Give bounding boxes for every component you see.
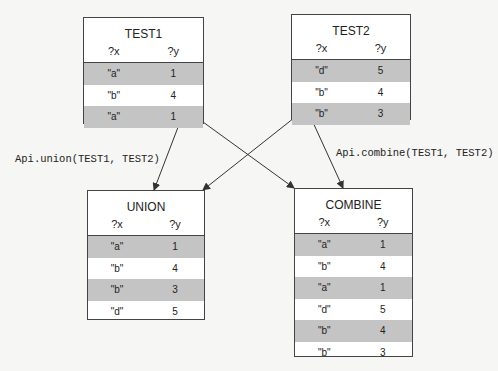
cell: 4 [354,325,413,336]
column-header: ?x [292,42,351,59]
cell: "a" [84,111,144,122]
arrows-layer [0,0,498,371]
cell: "b" [292,87,351,98]
cell: 3 [354,347,413,358]
table-row: "a"1 [84,63,203,85]
column-header: ?y [351,42,410,59]
table-header: ?x ?y [84,41,203,63]
arrow-test2-to-union [203,118,294,190]
table-row: "b"3 [292,103,410,125]
column-header: ?x [295,216,354,233]
table-title: COMBINE [295,189,412,212]
cell: 1 [146,241,204,252]
cell: 5 [354,304,413,315]
table-row: "b"4 [295,320,412,342]
table-header: ?x ?y [295,212,412,234]
table-row: "a"1 [84,106,203,128]
cell: 3 [146,284,204,295]
cell: 1 [144,68,204,79]
column-header: ?y [144,45,204,62]
cell: 1 [354,239,413,250]
table-row: "b"3 [88,279,204,301]
table-row: "a"1 [295,234,412,256]
cell: "b" [292,108,351,119]
cell: 5 [351,65,410,76]
cell: 4 [144,90,204,101]
table-header: ?x ?y [88,214,204,236]
cell: "d" [292,65,351,76]
table-row: "b"4 [295,256,412,278]
cell: "b" [295,261,354,272]
cell: "a" [295,282,354,293]
cell: "a" [295,239,354,250]
table-row: "a"1 [295,277,412,299]
cell: 5 [146,306,204,317]
combine-call-label: Api.combine(TEST1, TEST2) [336,147,494,159]
table-title: UNION [88,191,204,214]
union-call-label: Api.union(TEST1, TEST2) [15,153,160,165]
cell: "d" [295,304,354,315]
cell: "a" [88,241,146,252]
table-test1: TEST1 ?x ?y "a"1 "b"4 "a"1 [83,17,204,124]
cell: "a" [84,68,144,79]
table-row: "b"4 [292,82,410,104]
cell: "b" [84,90,144,101]
cell: "b" [88,284,146,295]
table-title: TEST2 [292,15,410,38]
arrow-test1-to-combine [203,122,294,188]
cell: 3 [351,108,410,119]
table-row: "b"4 [84,85,203,107]
table-row: "b"3 [295,342,412,364]
column-header: ?x [84,45,144,62]
cell: "b" [88,263,146,274]
column-header: ?x [88,218,146,235]
table-row: "a"1 [88,236,204,258]
cell: 1 [354,282,413,293]
cell: 1 [144,111,204,122]
table-combine: COMBINE ?x ?y "a"1 "b"4 "a"1 "d"5 "b"4 "… [294,188,413,357]
table-union: UNION ?x ?y "a"1 "b"4 "b"3 "d"5 [87,190,205,320]
cell: "d" [88,306,146,317]
column-header: ?y [146,218,204,235]
table-row: "d"5 [292,60,410,82]
cell: 4 [351,87,410,98]
table-row: "d"5 [88,301,204,323]
cell: "b" [295,325,354,336]
cell: 4 [354,261,413,272]
cell: "b" [295,347,354,358]
table-row: "b"4 [88,258,204,280]
table-title: TEST1 [84,18,203,41]
table-test2: TEST2 ?x ?y "d"5 "b"4 "b"3 [291,14,411,120]
table-row: "d"5 [295,299,412,321]
cell: 4 [146,263,204,274]
table-header: ?x ?y [292,38,410,60]
column-header: ?y [354,216,413,233]
